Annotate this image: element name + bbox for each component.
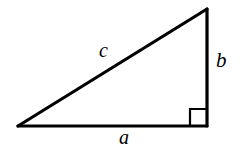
- side-label-c: c: [99, 40, 108, 60]
- hypotenuse-line-c: [18, 9, 207, 126]
- side-label-a: a: [119, 127, 129, 147]
- side-label-b: b: [216, 50, 227, 71]
- right-triangle-figure: c b a: [0, 0, 242, 153]
- right-angle-marker: [190, 109, 207, 126]
